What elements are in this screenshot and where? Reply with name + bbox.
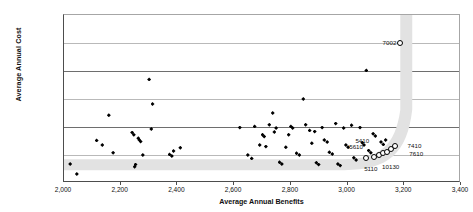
data-point bbox=[325, 140, 329, 144]
data-point bbox=[68, 162, 72, 166]
data-point bbox=[151, 102, 155, 106]
data-point bbox=[264, 145, 268, 149]
point-label: 10130 bbox=[382, 163, 399, 170]
data-point bbox=[272, 130, 276, 134]
data-point bbox=[308, 128, 312, 132]
data-point bbox=[271, 111, 275, 115]
data-point bbox=[107, 113, 111, 117]
data-point bbox=[147, 77, 151, 81]
data-point bbox=[334, 122, 338, 126]
x-tick-mark bbox=[176, 182, 177, 185]
y-axis-title: Average Annual Cost bbox=[14, 5, 23, 125]
gridline bbox=[64, 155, 459, 156]
gridline bbox=[64, 71, 459, 72]
gridline bbox=[64, 127, 459, 128]
x-tick-mark bbox=[120, 182, 121, 185]
x-tick-label: 2,800 bbox=[270, 186, 310, 193]
data-point bbox=[95, 138, 99, 142]
data-point bbox=[172, 149, 176, 153]
data-point bbox=[141, 153, 145, 157]
x-tick-mark bbox=[233, 182, 234, 185]
frontier-point bbox=[363, 155, 369, 161]
data-point bbox=[313, 130, 317, 134]
data-point bbox=[301, 97, 305, 101]
data-point bbox=[100, 143, 104, 147]
point-label: 7610 bbox=[409, 150, 423, 157]
data-point bbox=[284, 145, 288, 149]
plot-area: 70025410561074107610511010130 bbox=[63, 14, 460, 182]
x-tick-label: 3,400 bbox=[440, 186, 473, 193]
point-label: 7410 bbox=[408, 141, 422, 148]
x-tick-mark bbox=[347, 182, 348, 185]
gridline bbox=[64, 99, 459, 100]
point-label: 5110 bbox=[364, 164, 377, 171]
data-point bbox=[384, 138, 388, 142]
data-point bbox=[258, 143, 262, 147]
frontier-point bbox=[392, 143, 398, 149]
x-tick-label: 3,000 bbox=[327, 186, 367, 193]
x-tick-mark bbox=[460, 182, 461, 185]
data-point bbox=[310, 141, 314, 145]
data-point bbox=[322, 138, 326, 142]
x-tick-label: 2,200 bbox=[100, 186, 140, 193]
data-point bbox=[250, 156, 254, 160]
x-tick-label: 3,200 bbox=[383, 186, 423, 193]
x-tick-mark bbox=[290, 182, 291, 185]
data-point bbox=[287, 133, 291, 137]
data-point bbox=[246, 153, 250, 157]
frontier-point bbox=[397, 40, 403, 46]
point-label: 5610 bbox=[349, 143, 363, 150]
data-point bbox=[75, 172, 79, 176]
x-axis-title: Average Annual Benefits bbox=[63, 197, 460, 206]
x-tick-label: 2,600 bbox=[213, 186, 253, 193]
point-label: 7002 bbox=[383, 39, 397, 46]
x-tick-label: 2,400 bbox=[156, 186, 196, 193]
x-tick-mark bbox=[403, 182, 404, 185]
x-tick-label: 2,000 bbox=[43, 186, 83, 193]
data-point bbox=[178, 146, 182, 150]
